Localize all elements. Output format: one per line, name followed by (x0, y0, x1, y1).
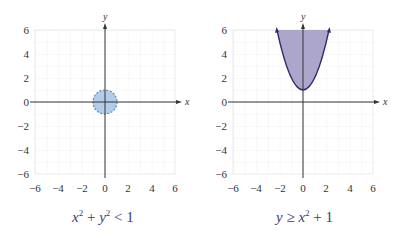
svg-text:4: 4 (222, 48, 228, 60)
svg-text:−4: −4 (215, 144, 227, 156)
caption-parabola-inequality: y ≥ x2 + 1 (276, 208, 333, 226)
y-axis-label: y (300, 11, 306, 22)
x-axis-label: x (382, 96, 388, 107)
svg-text:2: 2 (125, 182, 131, 194)
x-tick-labels: −6 −4 −2 0 2 4 6 (29, 182, 178, 194)
x-axis-arrow-icon (374, 100, 380, 104)
svg-text:4: 4 (149, 182, 155, 194)
svg-text:6: 6 (370, 182, 376, 194)
svg-text:0: 0 (222, 96, 228, 108)
svg-text:−2: −2 (274, 182, 286, 194)
svg-text:−6: −6 (227, 182, 239, 194)
svg-text:−4: −4 (52, 182, 64, 194)
svg-text:−2: −2 (215, 120, 227, 132)
svg-text:2: 2 (323, 182, 329, 194)
y-axis-arrow-icon (301, 23, 305, 29)
svg-text:0: 0 (102, 182, 108, 194)
svg-text:−2: −2 (76, 182, 88, 194)
svg-text:−2: −2 (17, 120, 29, 132)
svg-text:−6: −6 (17, 168, 29, 180)
caption-circle-inequality: x2 + y2 < 1 (72, 208, 134, 226)
svg-text:−6: −6 (29, 182, 41, 194)
y-axis-label: y (102, 11, 108, 22)
svg-text:6: 6 (222, 24, 228, 36)
plot-parabola-inequality: x y 6 4 2 0 −2 −4 −6 −6 −4 −2 0 2 4 6 (215, 11, 388, 194)
svg-text:6: 6 (172, 182, 178, 194)
svg-text:4: 4 (24, 48, 30, 60)
x-tick-labels: −6 −4 −2 0 2 4 6 (227, 182, 376, 194)
svg-text:−4: −4 (250, 182, 262, 194)
svg-text:6: 6 (24, 24, 30, 36)
svg-text:0: 0 (300, 182, 306, 194)
y-axis-arrow-icon (103, 23, 107, 29)
x-axis-label: x (184, 96, 190, 107)
svg-text:0: 0 (24, 96, 30, 108)
plot-circle-inequality: x y 6 4 2 0 −2 −4 −6 −6 −4 −2 0 2 4 6 (17, 11, 190, 194)
figure: x y 6 4 2 0 −2 −4 −6 −6 −4 −2 0 2 4 6 (0, 0, 399, 238)
svg-text:4: 4 (347, 182, 353, 194)
svg-text:2: 2 (222, 72, 228, 84)
svg-text:2: 2 (24, 72, 30, 84)
x-axis-arrow-icon (176, 100, 182, 104)
y-tick-labels: 6 4 2 0 −2 −4 −6 (215, 24, 227, 180)
svg-text:−4: −4 (17, 144, 29, 156)
svg-text:−6: −6 (215, 168, 227, 180)
y-tick-labels: 6 4 2 0 −2 −4 −6 (17, 24, 29, 180)
